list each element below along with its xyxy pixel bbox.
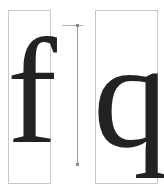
measure-height-line [77, 25, 78, 165]
measure-bottom-tick [76, 163, 79, 166]
measure-top-guide [62, 25, 83, 26]
measure-top-tick [76, 24, 79, 27]
glyph-q: q [93, 20, 164, 170]
glyph-f: f [7, 16, 57, 166]
